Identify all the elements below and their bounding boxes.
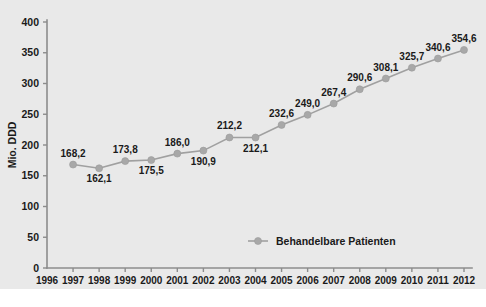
x-tick-label: 2006 bbox=[297, 275, 320, 286]
y-tick-label: 0 bbox=[33, 262, 39, 274]
data-point-marker[interactable] bbox=[200, 147, 207, 154]
data-point-label: 308,1 bbox=[373, 62, 398, 73]
data-point-marker[interactable] bbox=[252, 134, 259, 141]
x-tick-label: 1996 bbox=[36, 275, 59, 286]
data-point-label: 212,2 bbox=[217, 120, 242, 131]
x-tick-label: 2001 bbox=[166, 275, 189, 286]
x-tick-label: 2011 bbox=[427, 275, 449, 286]
x-tick-label: 2004 bbox=[244, 275, 267, 286]
line-chart: 0501001502002503003504001996199719981999… bbox=[0, 0, 486, 289]
y-tick-label: 400 bbox=[21, 16, 39, 28]
x-tick-label: 2007 bbox=[323, 275, 346, 286]
data-point-marker[interactable] bbox=[461, 46, 468, 53]
data-point-marker[interactable] bbox=[174, 150, 181, 157]
data-point-label: 354,6 bbox=[451, 33, 476, 44]
data-point-label: 267,4 bbox=[321, 87, 346, 98]
data-point-label: 325,7 bbox=[399, 51, 424, 62]
x-tick-label: 2000 bbox=[140, 275, 163, 286]
chart-panel: 0501001502002503003504001996199719981999… bbox=[0, 0, 486, 289]
data-point-label: 173,8 bbox=[113, 144, 138, 155]
legend-marker-icon bbox=[255, 238, 262, 245]
data-point-label: 168,2 bbox=[61, 148, 86, 159]
data-point-label: 232,6 bbox=[269, 108, 294, 119]
data-point-marker[interactable] bbox=[148, 157, 155, 164]
y-tick-label: 300 bbox=[21, 77, 39, 89]
data-point-marker[interactable] bbox=[408, 64, 415, 71]
data-point-marker[interactable] bbox=[278, 121, 285, 128]
x-tick-label: 1997 bbox=[62, 275, 85, 286]
y-tick-label: 100 bbox=[21, 200, 39, 212]
data-point-marker[interactable] bbox=[382, 75, 389, 82]
data-point-marker[interactable] bbox=[96, 165, 103, 172]
y-tick-label: 50 bbox=[27, 231, 39, 243]
y-tick-label: 350 bbox=[21, 46, 39, 58]
x-tick-label: 2003 bbox=[218, 275, 241, 286]
y-tick-label: 150 bbox=[21, 169, 39, 181]
data-point-marker[interactable] bbox=[304, 111, 311, 118]
x-tick-label: 1999 bbox=[114, 275, 137, 286]
data-point-marker[interactable] bbox=[356, 86, 363, 93]
y-tick-label: 200 bbox=[21, 139, 39, 151]
x-tick-label: 1998 bbox=[88, 275, 111, 286]
data-point-label: 186,0 bbox=[165, 137, 190, 148]
data-point-marker[interactable] bbox=[70, 161, 77, 168]
data-point-marker[interactable] bbox=[434, 55, 441, 62]
data-point-label: 162,1 bbox=[87, 173, 112, 184]
x-tick-label: 2002 bbox=[192, 275, 215, 286]
y-axis-title: Mio. DDD bbox=[6, 121, 18, 168]
data-point-label: 212,1 bbox=[243, 143, 268, 154]
data-point-label: 190,9 bbox=[191, 156, 216, 167]
data-point-marker[interactable] bbox=[122, 158, 129, 165]
data-point-label: 290,6 bbox=[347, 72, 372, 83]
x-tick-label: 2012 bbox=[453, 275, 476, 286]
data-point-marker[interactable] bbox=[226, 134, 233, 141]
x-tick-label: 2005 bbox=[270, 275, 293, 286]
x-tick-label: 2008 bbox=[349, 275, 372, 286]
x-tick-label: 2010 bbox=[401, 275, 424, 286]
x-tick-label: 2009 bbox=[375, 275, 398, 286]
y-tick-label: 250 bbox=[21, 108, 39, 120]
data-point-marker[interactable] bbox=[330, 100, 337, 107]
legend-label: Behandelbare Patienten bbox=[276, 235, 396, 247]
data-point-label: 175,5 bbox=[139, 165, 164, 176]
data-point-label: 249,0 bbox=[295, 98, 320, 109]
data-point-label: 340,6 bbox=[425, 42, 450, 53]
